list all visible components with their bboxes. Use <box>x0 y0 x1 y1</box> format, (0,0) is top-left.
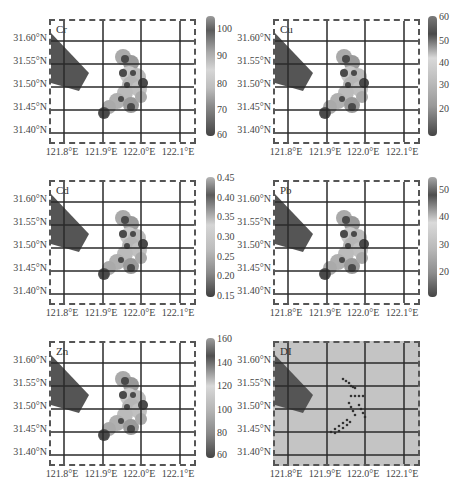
y-tick-label: 31.45°N <box>3 101 47 112</box>
y-tick-label: 31.40°N <box>3 285 47 296</box>
x-tick-label: 122.1°E <box>156 468 200 479</box>
y-tick-label: 31.50°N <box>227 239 271 250</box>
colorbar-tick-label: 70 <box>217 104 227 115</box>
x-tick-label: 121.8°E <box>40 468 84 479</box>
y-tick-label: 31.55°N <box>227 55 271 66</box>
colorbar-tick-label: 0.45 <box>217 172 235 183</box>
x-tick-label: 122.0°E <box>341 468 385 479</box>
y-tick-label: 31.45°N <box>227 262 271 273</box>
x-tick-label: 122.0°E <box>341 307 385 318</box>
colorbar-tick-label: 20 <box>439 266 449 277</box>
y-tick-label: 31.60°N <box>227 354 271 365</box>
colorbar <box>206 338 215 458</box>
y-tick-label: 31.60°N <box>227 32 271 43</box>
colorbar-tick-label: 50 <box>439 35 449 46</box>
x-tick-label: 122.1°E <box>156 146 200 157</box>
y-tick-label: 31.60°N <box>3 193 47 204</box>
map-frame: DI <box>273 341 420 466</box>
colorbar-tick-label: 160 <box>217 333 232 344</box>
y-tick-label: 31.50°N <box>3 78 47 89</box>
y-tick-label: 31.40°N <box>227 285 271 296</box>
map-frame: Zn <box>49 341 196 466</box>
y-tick-label: 31.50°N <box>3 400 47 411</box>
panel-label: Cd <box>56 184 69 196</box>
panel-label: Cu <box>280 23 293 35</box>
colorbar-tick-label: 80 <box>217 78 227 89</box>
colorbar-tick-label: 40 <box>439 57 449 68</box>
x-tick-label: 122.0°E <box>117 146 161 157</box>
x-tick-label: 122.1°E <box>380 146 424 157</box>
map-canvas <box>51 182 196 305</box>
x-tick-label: 121.8°E <box>264 468 308 479</box>
map-frame: Cd <box>49 180 196 305</box>
panel-label: Cr <box>56 23 67 35</box>
y-tick-label: 31.55°N <box>227 377 271 388</box>
y-tick-label: 31.50°N <box>227 78 271 89</box>
y-tick-label: 31.45°N <box>3 423 47 434</box>
y-tick-label: 31.45°N <box>3 262 47 273</box>
y-tick-label: 31.55°N <box>227 216 271 227</box>
colorbar-tick-label: 0.25 <box>217 251 235 262</box>
colorbar-tick-label: 80 <box>217 427 227 438</box>
map-canvas <box>275 21 420 144</box>
x-tick-label: 122.0°E <box>117 468 161 479</box>
colorbar-tick-label: 50 <box>439 184 449 195</box>
colorbar <box>206 16 215 136</box>
y-tick-label: 31.60°N <box>227 193 271 204</box>
y-tick-label: 31.50°N <box>227 400 271 411</box>
colorbar <box>428 177 437 297</box>
colorbar-tick-label: 60 <box>439 11 449 22</box>
x-tick-label: 122.1°E <box>156 307 200 318</box>
map-frame: Cr <box>49 19 196 144</box>
colorbar <box>428 16 437 136</box>
colorbar <box>206 177 215 297</box>
panel-label: Zn <box>56 345 68 357</box>
colorbar-tick-label: 30 <box>439 79 449 90</box>
x-tick-label: 121.8°E <box>40 146 84 157</box>
y-tick-label: 31.45°N <box>227 101 271 112</box>
x-tick-label: 122.1°E <box>380 468 424 479</box>
colorbar-tick-label: 90 <box>217 50 227 61</box>
colorbar-tick-label: 20 <box>439 103 449 114</box>
x-tick-label: 121.8°E <box>264 146 308 157</box>
map-canvas <box>275 343 420 466</box>
y-tick-label: 31.40°N <box>3 124 47 135</box>
map-canvas <box>51 21 196 144</box>
x-tick-label: 122.0°E <box>117 307 161 318</box>
colorbar-tick-label: 60 <box>217 449 227 460</box>
panel-label: DI <box>280 345 292 357</box>
y-tick-label: 31.55°N <box>3 55 47 66</box>
panel-label: Pb <box>280 184 292 196</box>
x-tick-label: 121.8°E <box>264 307 308 318</box>
y-tick-label: 31.60°N <box>3 354 47 365</box>
y-tick-label: 31.55°N <box>3 377 47 388</box>
colorbar-tick-label: 30 <box>439 239 449 250</box>
y-tick-label: 31.40°N <box>227 446 271 457</box>
y-tick-label: 31.40°N <box>227 124 271 135</box>
map-canvas <box>51 343 196 466</box>
x-tick-label: 122.1°E <box>380 307 424 318</box>
x-tick-label: 122.0°E <box>341 146 385 157</box>
map-canvas <box>275 182 420 305</box>
x-tick-label: 121.8°E <box>40 307 84 318</box>
y-tick-label: 31.45°N <box>227 423 271 434</box>
map-frame: Pb <box>273 180 420 305</box>
y-tick-label: 31.40°N <box>3 446 47 457</box>
colorbar-tick-label: 60 <box>217 129 227 140</box>
colorbar-tick-label: 40 <box>439 211 449 222</box>
y-tick-label: 31.60°N <box>3 32 47 43</box>
y-tick-label: 31.55°N <box>3 216 47 227</box>
y-tick-label: 31.50°N <box>3 239 47 250</box>
map-frame: Cu <box>273 19 420 144</box>
